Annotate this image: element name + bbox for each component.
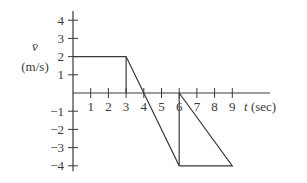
y-tick-label: −2 (50, 122, 64, 137)
y-tick-label: −4 (50, 158, 64, 173)
x-tick-label: 2 (105, 99, 112, 114)
y-tick-label: 2 (58, 49, 65, 64)
x-tick-label: 7 (194, 99, 201, 114)
velocity-line (73, 57, 232, 166)
y-tick-label: −3 (50, 140, 64, 155)
x-tick-label: 5 (158, 99, 165, 114)
plot-lines (73, 57, 232, 166)
y-tick-label: 4 (58, 13, 65, 28)
x-tick-label: 3 (123, 99, 130, 114)
x-tick-label: 4 (141, 99, 148, 114)
x-tick-label: 6 (176, 99, 183, 114)
x-tick-label: 8 (211, 99, 218, 114)
y-tick-label: 1 (58, 67, 65, 82)
y-tick-label: −1 (50, 104, 64, 119)
y-axis-variable: v̄ (32, 39, 38, 54)
x-axis-label: t (sec) (244, 99, 276, 114)
y-axis-unit: (m/s) (21, 59, 48, 74)
axes (68, 11, 270, 171)
x-tick-label: 9 (229, 99, 236, 114)
x-tick-label: 1 (87, 99, 94, 114)
x-axis-unit: (sec) (248, 99, 277, 114)
y-tick-label: 3 (58, 31, 65, 46)
velocity-time-chart: 4321−1−2−3−4123456789v̄(m/s)t (sec) (0, 0, 307, 183)
